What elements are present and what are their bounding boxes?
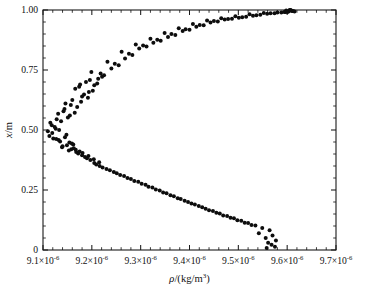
data-point bbox=[232, 216, 236, 220]
data-point bbox=[48, 121, 52, 125]
data-point bbox=[130, 53, 134, 57]
data-point bbox=[265, 246, 269, 250]
data-point bbox=[184, 27, 188, 31]
data-point bbox=[251, 14, 255, 18]
data-point bbox=[193, 202, 197, 206]
data-point bbox=[219, 16, 223, 20]
data-point bbox=[120, 50, 124, 54]
data-point bbox=[292, 9, 296, 13]
data-point bbox=[207, 208, 211, 212]
data-point bbox=[117, 63, 121, 67]
data-point bbox=[88, 78, 92, 82]
data-point bbox=[141, 44, 145, 48]
data-point bbox=[239, 219, 243, 223]
data-point bbox=[105, 60, 109, 64]
x-tick-label: 9.7×10-6 bbox=[320, 254, 353, 266]
x-tick-label: 9.1×10-6 bbox=[27, 254, 60, 266]
plot-canvas: 9.1×10-69.2×10-69.3×10-69.4×10-69.5×10-6… bbox=[0, 0, 365, 292]
data-point bbox=[150, 186, 154, 190]
data-point bbox=[189, 201, 193, 205]
data-point bbox=[72, 146, 76, 150]
data-point bbox=[270, 243, 274, 247]
data-point bbox=[89, 70, 93, 74]
data-point bbox=[115, 171, 119, 175]
data-point bbox=[92, 157, 96, 161]
y-tick-label: 1.00 bbox=[21, 4, 38, 15]
data-point bbox=[96, 77, 100, 81]
data-point bbox=[257, 231, 261, 235]
data-point bbox=[235, 218, 239, 222]
data-point bbox=[204, 207, 208, 211]
data-point bbox=[223, 18, 227, 22]
data-point bbox=[79, 100, 83, 104]
data-point bbox=[265, 12, 269, 16]
data-point bbox=[188, 28, 192, 32]
data-point bbox=[56, 112, 60, 116]
data-point bbox=[248, 12, 252, 16]
data-point bbox=[69, 103, 73, 107]
data-point bbox=[66, 116, 70, 120]
data-point bbox=[84, 80, 88, 84]
data-point bbox=[73, 87, 77, 91]
data-point bbox=[91, 89, 95, 93]
data-point bbox=[271, 234, 275, 238]
data-point bbox=[53, 125, 57, 129]
data-point bbox=[77, 85, 81, 89]
data-point bbox=[101, 165, 105, 169]
data-point bbox=[285, 10, 289, 14]
data-point bbox=[46, 129, 50, 133]
data-point bbox=[97, 160, 101, 164]
data-point bbox=[151, 41, 155, 45]
data-point bbox=[179, 197, 183, 201]
data-point bbox=[211, 209, 215, 213]
data-point bbox=[154, 188, 158, 192]
data-point bbox=[47, 134, 51, 138]
data-point bbox=[63, 102, 67, 106]
data-point bbox=[289, 8, 293, 12]
data-point bbox=[163, 31, 167, 35]
scatter-plot-figure: 9.1×10-69.2×10-69.3×10-69.4×10-69.5×10-6… bbox=[0, 0, 365, 292]
data-point bbox=[274, 238, 278, 242]
data-point bbox=[50, 131, 54, 135]
data-point bbox=[73, 111, 77, 115]
data-point bbox=[253, 224, 257, 228]
data-point bbox=[155, 38, 159, 42]
data-point bbox=[63, 135, 67, 139]
plot-frame bbox=[43, 10, 336, 250]
data-point bbox=[70, 98, 74, 102]
data-point bbox=[230, 17, 234, 21]
data-point bbox=[123, 56, 127, 60]
data-point bbox=[168, 193, 172, 197]
data-point bbox=[264, 236, 268, 240]
data-point bbox=[240, 15, 244, 19]
y-tick-label: 0.75 bbox=[21, 64, 38, 75]
data-point bbox=[129, 177, 133, 181]
data-point bbox=[244, 15, 248, 19]
data-point bbox=[198, 23, 202, 27]
data-point bbox=[166, 35, 170, 39]
data-point bbox=[260, 226, 264, 230]
data-point bbox=[200, 205, 204, 209]
data-point bbox=[82, 92, 86, 96]
data-point bbox=[158, 188, 162, 192]
y-tick-label: 0 bbox=[33, 244, 38, 255]
x-tick-label: 9.6×10-6 bbox=[271, 254, 304, 266]
data-point bbox=[212, 19, 216, 23]
data-point bbox=[202, 23, 206, 27]
data-point bbox=[183, 199, 187, 203]
data-point bbox=[137, 46, 141, 50]
data-point bbox=[113, 62, 117, 66]
data-point bbox=[108, 168, 112, 172]
data-point bbox=[125, 176, 129, 180]
ticks-group bbox=[43, 10, 336, 250]
data-point bbox=[246, 221, 250, 225]
data-point bbox=[161, 190, 165, 194]
data-point bbox=[273, 245, 277, 249]
data-point bbox=[262, 11, 266, 15]
data-point bbox=[275, 10, 279, 14]
data-point bbox=[226, 17, 230, 21]
data-point bbox=[191, 22, 195, 26]
data-point bbox=[159, 39, 163, 43]
data-point bbox=[87, 90, 91, 94]
data-point bbox=[197, 204, 201, 208]
